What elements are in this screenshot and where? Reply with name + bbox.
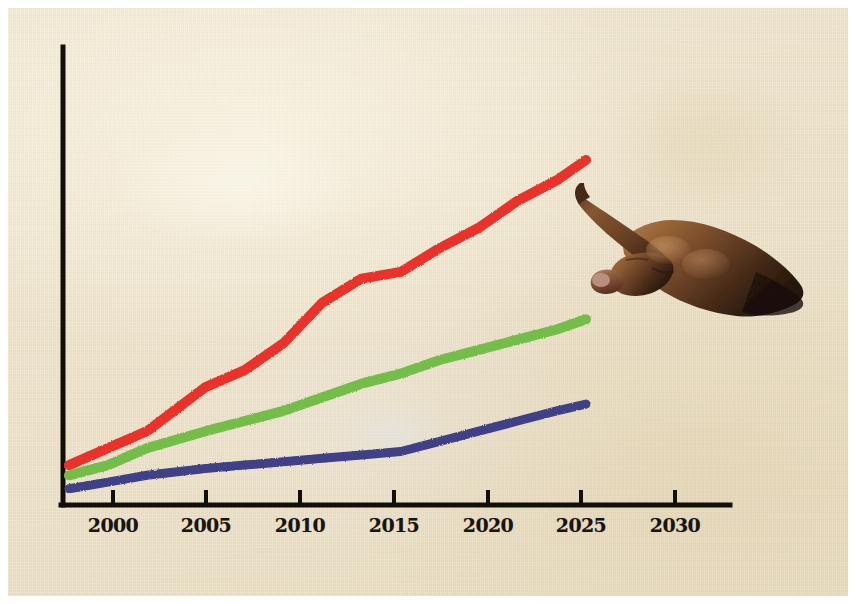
hand-graphic [560, 168, 808, 330]
x-tick-label-2015: 2015 [369, 514, 419, 536]
x-tick-label-2020: 2020 [463, 514, 513, 536]
figure-canvas: 2000 2005 2010 2015 2020 2025 2030 [0, 0, 856, 604]
paper-background: 2000 2005 2010 2015 2020 2025 2030 [8, 8, 848, 596]
pointing-hand-icon [560, 168, 808, 330]
x-tick-label-2030: 2030 [650, 514, 700, 536]
x-tick-label-2005: 2005 [181, 514, 231, 536]
x-tick-label-2010: 2010 [275, 514, 325, 536]
x-tick-label-2025: 2025 [556, 514, 606, 536]
hand-thumb-nail [592, 273, 610, 287]
hand-knuckle-highlight-2 [682, 249, 730, 279]
chart-plot-area: 2000 2005 2010 2015 2020 2025 2030 [8, 8, 848, 596]
x-tick-label-2000: 2000 [88, 514, 138, 536]
series-line-green [69, 319, 586, 475]
